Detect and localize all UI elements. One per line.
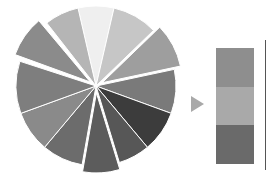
exploded-pie-diagram bbox=[0, 0, 200, 186]
stack-segment-bottom bbox=[216, 125, 254, 164]
stack-segment-middle bbox=[216, 87, 254, 126]
stacked-bar bbox=[216, 48, 254, 164]
arrow-right-icon bbox=[191, 96, 204, 112]
divider-line bbox=[265, 40, 266, 170]
stack-segment-top bbox=[216, 48, 254, 87]
